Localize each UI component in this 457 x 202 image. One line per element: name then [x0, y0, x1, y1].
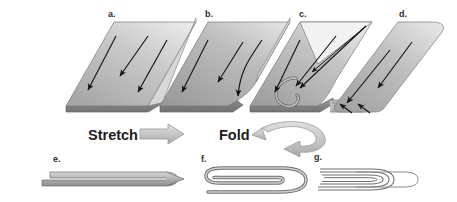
panel-g-ribbon — [318, 169, 418, 190]
panel-f-ribbon — [206, 168, 306, 192]
panel-label-g: g. — [314, 153, 322, 162]
panel-label-a: a. — [108, 10, 116, 19]
fold-label: Fold — [219, 128, 250, 143]
panel-label-b: b. — [205, 10, 213, 19]
stretch-fold-diagram: a. b. c. d. e. f. g. Stretch Fold — [0, 0, 457, 202]
panel-label-e: e. — [53, 155, 61, 164]
diagram-canvas — [0, 0, 457, 202]
stretch-arrow-icon — [140, 124, 184, 144]
panel-e-ribbon — [42, 172, 184, 186]
panel-label-f: f. — [201, 155, 207, 164]
panel-label-d: d. — [399, 10, 407, 19]
stretch-label: Stretch — [88, 128, 138, 143]
panel-label-c: c. — [299, 10, 307, 19]
